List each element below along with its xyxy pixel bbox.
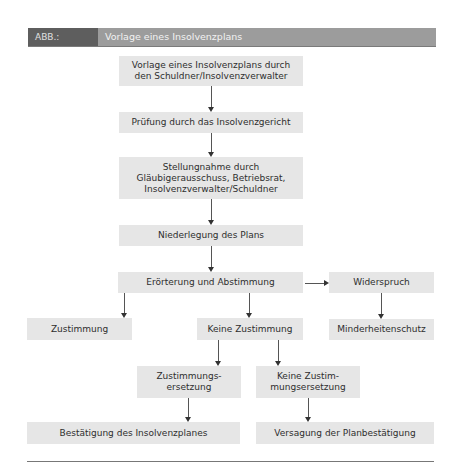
connector-line — [278, 340, 279, 361]
connector-line — [211, 133, 212, 152]
connector-line — [188, 398, 189, 417]
node-widerspruch: Widerspruch — [329, 272, 434, 293]
node-keine-zustimmung: Keine Zustimmung — [197, 318, 303, 340]
figure-header: ABB.: Vorlage eines Insolvenzplans — [28, 28, 436, 47]
connector-line — [381, 293, 382, 314]
node-vorlage: Vorlage eines Insolvenzplans durch den S… — [119, 56, 303, 86]
connector-line — [211, 246, 212, 267]
node-versagung: Versagung der Planbestätigung — [256, 422, 434, 444]
node-zustimmungsersetzung: Zustimmungs- ersetzung — [137, 366, 241, 398]
node-minderheitenschutz: Minderheitenschutz — [329, 319, 434, 340]
connector-line — [211, 86, 212, 107]
node-pruefung: Prüfung durch das Insolvenzgericht — [119, 112, 303, 133]
connector-line — [308, 398, 309, 417]
connector-line — [218, 340, 219, 361]
node-eroerterung: Erörterung und Abstimmung — [118, 272, 303, 293]
figure-title: Vorlage eines Insolvenzplans — [105, 28, 242, 46]
node-niederlegung: Niederlegung des Plans — [119, 225, 303, 246]
node-keine-zustimmungsersetzung: Keine Zustim- mungsersetzung — [256, 366, 360, 398]
connector-line — [124, 293, 125, 313]
connector-line — [249, 293, 250, 313]
node-bestaetigung: Bestätigung des Insolvenzplanes — [27, 422, 240, 444]
figure-label: ABB.: — [28, 28, 98, 46]
connector-line — [305, 283, 324, 284]
node-zustimmung: Zustimmung — [27, 318, 132, 340]
node-stellungnahme: Stellungnahme durch Gläubigerausschuss, … — [119, 157, 303, 199]
footer-divider — [27, 461, 434, 462]
connector-line — [211, 199, 212, 220]
